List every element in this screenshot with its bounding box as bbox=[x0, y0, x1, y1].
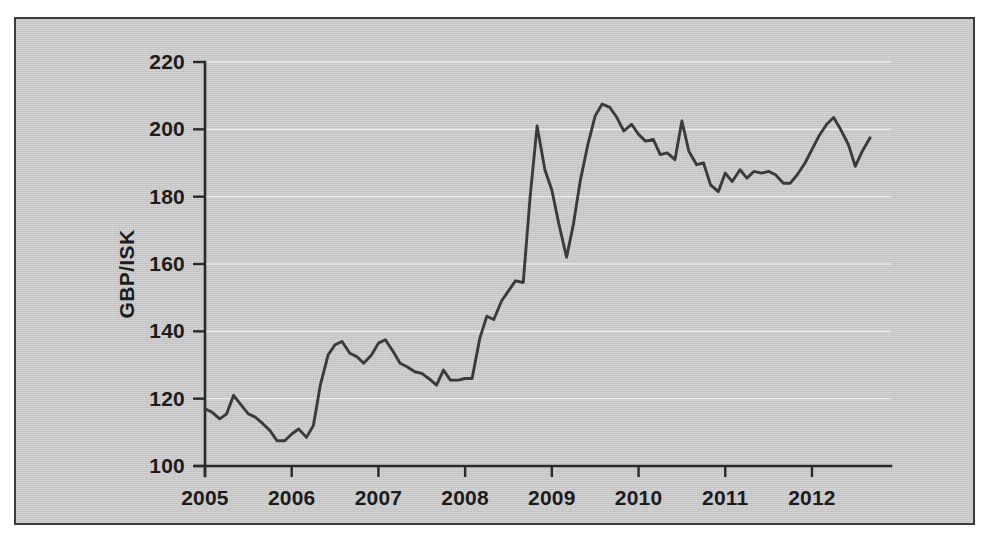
y-axis-title: GBP/ISK bbox=[115, 229, 138, 318]
x-tick-label-2010: 2010 bbox=[615, 486, 663, 509]
y-tick-label-200: 200 bbox=[149, 117, 185, 140]
y-tick-label-140: 140 bbox=[149, 319, 185, 342]
figure-root: 100120140160180200220 200520062007200820… bbox=[0, 0, 996, 544]
x-tick-label-2007: 2007 bbox=[355, 486, 403, 509]
y-axis-ticks: 100120140160180200220 bbox=[149, 50, 205, 477]
chart-panel: 100120140160180200220 200520062007200820… bbox=[14, 17, 975, 525]
x-tick-label-2012: 2012 bbox=[788, 486, 836, 509]
y-tick-label-180: 180 bbox=[149, 185, 185, 208]
x-tick-label-2009: 2009 bbox=[528, 486, 576, 509]
gridlines bbox=[205, 62, 891, 466]
y-tick-label-100: 100 bbox=[149, 454, 185, 477]
series-line-gbp-isk bbox=[205, 104, 870, 441]
x-tick-label-2005: 2005 bbox=[181, 486, 229, 509]
y-tick-label-120: 120 bbox=[149, 387, 185, 410]
x-tick-label-2006: 2006 bbox=[268, 486, 316, 509]
x-tick-label-2011: 2011 bbox=[702, 486, 748, 509]
y-tick-label-160: 160 bbox=[149, 252, 185, 275]
y-tick-label-220: 220 bbox=[149, 50, 185, 73]
x-axis-ticks: 20052006200720082009201020112012 bbox=[181, 466, 835, 509]
line-chart: 100120140160180200220 200520062007200820… bbox=[16, 19, 975, 525]
x-tick-label-2008: 2008 bbox=[441, 486, 489, 509]
